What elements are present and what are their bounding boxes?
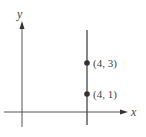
x-axis-arrow-icon: [120, 110, 128, 115]
point-4-3: [84, 60, 90, 66]
x-axis-label: x: [131, 106, 136, 118]
y-axis-arrow-icon: [20, 21, 25, 29]
y-axis-label: y: [17, 8, 22, 20]
point-label-4-3: (4, 3): [93, 58, 117, 69]
point-4-1: [84, 91, 90, 97]
point-label-4-1: (4, 1): [93, 89, 117, 100]
